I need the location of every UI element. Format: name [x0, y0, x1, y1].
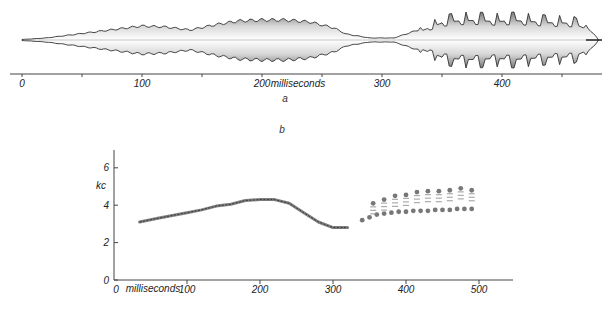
pulse-marker: [469, 207, 474, 212]
y-tick-label-b: 0: [103, 275, 109, 286]
x-tick-label-a: 100: [134, 78, 151, 89]
x-axis-label-b: milliseconds: [126, 283, 180, 294]
x-tick-label-a: 400: [494, 78, 511, 89]
spectrogram-panel-b: b 02460100200300400500 kc milliseconds: [96, 124, 513, 295]
pulse-marker: [415, 190, 420, 195]
pulse-marker: [426, 208, 431, 213]
pulse-marker: [393, 193, 398, 198]
x-tick-label-a: 0: [19, 78, 25, 89]
pulse-marker: [436, 189, 441, 194]
y-tick-label-b: 4: [103, 200, 109, 211]
pulse-marker: [396, 209, 401, 214]
pulse-marker: [411, 208, 416, 213]
pulse-marker: [367, 215, 372, 220]
pulse-marker: [458, 186, 463, 191]
spectrogram-traces: [140, 186, 475, 228]
pulse-marker: [462, 207, 467, 212]
x-tick-label-b: 0: [113, 284, 119, 295]
x-tick-label-b: 300: [325, 284, 342, 295]
pulse-marker: [447, 188, 452, 193]
y-axis-label-b: kc: [96, 180, 106, 191]
x-tick-label-a: 200: [253, 78, 271, 89]
pulse-marker: [418, 208, 423, 213]
pulse-marker: [389, 210, 394, 215]
pulse-marker: [469, 188, 474, 193]
pulse-marker: [440, 207, 445, 212]
x-tick-label-b: 500: [471, 284, 488, 295]
y-tick-label-b: 6: [103, 162, 109, 173]
pulse-marker: [404, 209, 409, 214]
pulse-marker: [382, 211, 387, 216]
pulse-marker: [447, 207, 452, 212]
x-tick-label-a: 300: [374, 78, 391, 89]
pulse-marker: [371, 201, 376, 206]
pulse-marker: [404, 193, 409, 198]
panel-label-b: b: [279, 124, 285, 135]
x-tick-label-b: 400: [398, 284, 415, 295]
pulse-marker: [360, 218, 365, 223]
y-tick-label-b: 2: [102, 237, 109, 248]
x-tick-label-b: 100: [179, 284, 196, 295]
oscillogram-panel-a: 0100200300400 milliseconds a: [10, 12, 602, 104]
x-axis-label-a: milliseconds: [271, 78, 325, 89]
panel-label-a: a: [282, 93, 288, 104]
fundamental-sweep-trace: [140, 200, 348, 228]
x-tick-label-b: 200: [251, 284, 269, 295]
pulse-marker: [433, 207, 438, 212]
pulse-marker: [455, 207, 460, 212]
pulse-marker: [374, 212, 379, 217]
axis-ticks-b: 02460100200300400500: [102, 162, 487, 295]
figure: 0100200300400 milliseconds a b 024601002…: [0, 0, 613, 310]
pulse-marker: [426, 189, 431, 194]
pulse-marker: [382, 197, 387, 202]
